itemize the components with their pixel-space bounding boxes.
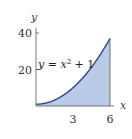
x-ticks: 36 [70, 113, 114, 126]
x-axis-label: x [120, 99, 127, 112]
equation-label: y = x2 + 1 [37, 58, 94, 71]
equation-main: y = x [37, 58, 67, 71]
x-tick-label: 3 [70, 113, 77, 126]
equation-tail: + 1 [71, 58, 94, 71]
y-tick-label: 20 [18, 64, 32, 77]
y-tick-label: 40 [18, 27, 32, 40]
y-axis-label: y [30, 11, 38, 24]
x-tick-label: 6 [107, 113, 114, 126]
area-chart: 2040 36 y x y = x2 + 1 [0, 0, 132, 139]
shaded-area [36, 38, 110, 106]
